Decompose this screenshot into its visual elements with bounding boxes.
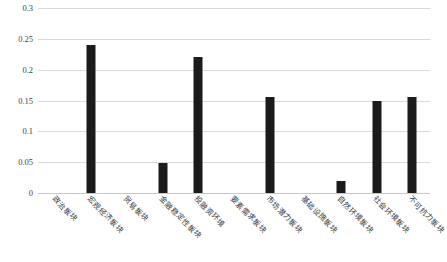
y-axis-tick-label: 0.3: [22, 4, 33, 13]
bar-slot: [216, 8, 252, 193]
bar-slot: [145, 8, 181, 193]
y-axis-tick-label: 0.05: [18, 158, 33, 167]
x-label-slot: 金融稳定性板块: [145, 193, 181, 255]
y-axis-tick-label: 0: [29, 189, 33, 198]
bar: [87, 45, 96, 193]
x-axis-labels: 政治板块宏观经济板块贸易板块金融稳定性板块投融资环境要素需求板块市场潜力板块基础…: [38, 193, 430, 255]
y-axis-tick-label: 0.15: [18, 96, 33, 105]
bar-slot: [181, 8, 217, 193]
x-label-slot: 宏观经济板块: [74, 193, 110, 255]
bar: [372, 101, 381, 193]
x-label-slot: 市场潜力板块: [252, 193, 288, 255]
plot-area: 0.30.250.20.150.10.050: [38, 8, 430, 193]
x-label-slot: 政治板块: [38, 193, 74, 255]
x-label-slot: 不可抗力板块: [394, 193, 430, 255]
bar-slot: [74, 8, 110, 193]
bar-slot: [252, 8, 288, 193]
x-label-slot: 社会环境板块: [359, 193, 395, 255]
x-axis-tick-label: 不可抗力板块: [407, 195, 447, 235]
x-label-slot: 要素需求板块: [216, 193, 252, 255]
bar-slot: [359, 8, 395, 193]
bar-slot: [287, 8, 323, 193]
bar-slot: [38, 8, 74, 193]
bar: [194, 57, 203, 193]
x-label-slot: 贸易板块: [109, 193, 145, 255]
bar: [158, 163, 167, 193]
bar: [265, 97, 274, 193]
x-label-slot: 投融资环境: [181, 193, 217, 255]
x-label-slot: 自然环境板块: [323, 193, 359, 255]
bar-slot: [323, 8, 359, 193]
y-axis-tick-label: 0.25: [18, 35, 33, 44]
y-axis-tick-label: 0.2: [22, 65, 33, 74]
y-axis-tick-label: 0.1: [22, 127, 33, 136]
x-label-slot: 基础设施板块: [287, 193, 323, 255]
bar: [408, 97, 417, 193]
bars-group: [38, 8, 430, 193]
bar: [336, 181, 345, 193]
bar-slot: [109, 8, 145, 193]
bar-slot: [394, 8, 430, 193]
